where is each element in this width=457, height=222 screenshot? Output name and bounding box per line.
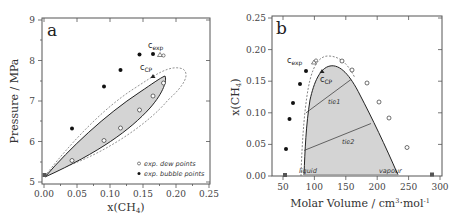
panel-a-xlabel: x(CH4) — [107, 201, 144, 215]
panel-a-xtick-2: 0.10 — [100, 189, 120, 199]
panel-a-cexp-dew-point — [162, 54, 165, 57]
panel-b-ytick-0.20: 0.20 — [246, 45, 266, 55]
panel-b-ylabel: x(CH4) — [229, 78, 243, 115]
panel-b: 0.25 0.20 0.15 0.10 0.05 0.00 50 100 150… — [229, 13, 449, 210]
panel-a-ytick-6: 6 — [29, 137, 35, 147]
panel-b-xtick-200: 200 — [369, 182, 386, 192]
panel-b-ytick-0.05: 0.05 — [246, 139, 266, 149]
panel-b-label: b — [276, 18, 287, 38]
panel-b-ytick-0.10: 0.10 — [246, 108, 266, 118]
panel-b-xtick-100: 100 — [306, 182, 323, 192]
panel-a-ylabel: Pressure / MPa — [8, 58, 21, 143]
panel-a: 9 8 7 6 5 0.00 0.05 0.10 0.15 0.20 0.25 … — [8, 15, 219, 215]
panel-a-xtick-5: 0.25 — [199, 189, 219, 199]
panel-b-liquid-label: liquid — [299, 167, 318, 175]
panel-b-tie1-label: tie1 — [328, 98, 341, 106]
panel-b-tie2-label: tie2 — [342, 138, 355, 146]
panel-b-pure-liquid-marker — [283, 173, 287, 177]
figure: 9 8 7 6 5 0.00 0.05 0.10 0.15 0.20 0.25 … — [0, 0, 457, 222]
panel-b-cexp-dew-point — [314, 59, 317, 62]
panel-a-xtick-3: 0.15 — [133, 189, 153, 199]
panel-b-ytick-0.25: 0.25 — [246, 13, 266, 23]
panel-b-ytick-0.00: 0.00 — [246, 171, 266, 181]
panel-b-xlabel: Molar Volume / cm3·mol-1 — [290, 197, 430, 210]
panel-a-xtick-0: 0.00 — [34, 189, 54, 199]
panel-b-xtick-50: 50 — [277, 182, 289, 192]
panel-a-xtick-1: 0.05 — [67, 189, 87, 199]
panel-b-xtick-250: 250 — [400, 182, 417, 192]
panel-a-ytick-9: 9 — [29, 15, 35, 25]
legend-bubble-label: exp. bubble points — [144, 170, 205, 178]
panel-b-ytick-0.15: 0.15 — [246, 76, 266, 86]
panel-a-ytick-8: 8 — [29, 56, 35, 66]
panel-a-xtick-4: 0.20 — [166, 189, 186, 199]
panel-b-pure-vapour-marker — [430, 173, 434, 177]
legend-dew-label: exp. dew points — [144, 160, 196, 168]
legend-open-circle-icon — [138, 162, 141, 165]
legend-filled-circle-icon — [138, 172, 141, 175]
panel-b-vapour-label: vapour — [379, 167, 403, 175]
panel-a-ytick-7: 7 — [29, 96, 35, 106]
panel-a-ytick-5: 5 — [29, 177, 35, 187]
panel-b-xtick-150: 150 — [337, 182, 354, 192]
panel-a-label: a — [47, 20, 57, 40]
panel-b-xtick-300: 300 — [431, 182, 448, 192]
panel-a-pure-component-marker — [43, 173, 47, 177]
